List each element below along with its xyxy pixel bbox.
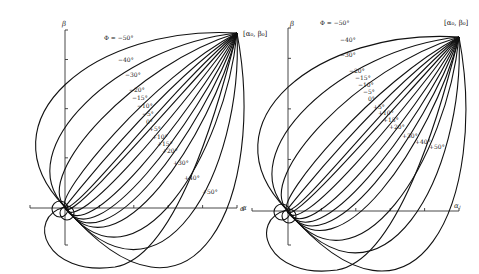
phi-curve-plus50deg [36, 32, 237, 207]
phi-curve-plus10deg [287, 37, 459, 210]
phi-label: +5° [149, 125, 161, 132]
phi-label: −20° [129, 86, 145, 93]
phi-label: −15° [355, 74, 371, 81]
phi-label: +50° [202, 188, 218, 195]
phi-label: +30° [173, 159, 189, 166]
phi-label: 0° [146, 118, 153, 125]
phi-curves [36, 32, 244, 267]
phi-label: −30° [125, 71, 141, 78]
phi-label: +10° [152, 133, 168, 140]
origin-loops [45, 33, 237, 268]
phi-label: +10° [378, 109, 394, 116]
phi-label: −5° [142, 110, 154, 117]
outer-lower-curve [45, 33, 237, 268]
alpha-left-marker: α [242, 204, 247, 212]
phi-label: +50° [429, 143, 445, 150]
target-point-label: [α₀, β₀] [243, 30, 268, 38]
phi-label: −5° [363, 88, 375, 95]
phase-trajectory-diagram: βα[α₀, β₀]Φ = −50°−40°−30°−20°−15°−10°−5… [0, 0, 479, 274]
phi-label: −10° [358, 81, 374, 88]
phi-label: −40° [118, 56, 134, 63]
beta-axis-label: β [289, 20, 294, 28]
phi-label: −10° [137, 102, 153, 109]
phi-label: Φ = −50° [104, 34, 133, 41]
left-panel: βα[α₀, β₀]Φ = −50°−40°−30°−20°−15°−10°−5… [30, 20, 268, 268]
phi-label: +20° [389, 123, 405, 130]
target-point-label: [α₀, β₀] [444, 19, 469, 27]
phi-label: 0° [368, 95, 375, 102]
alpha-axis-label: αⱼ [454, 202, 461, 210]
phi-curve-minus30deg [287, 37, 459, 240]
phi-label: +20° [162, 147, 178, 154]
phi-curve-minus30deg [65, 33, 237, 237]
phi-label: +15° [157, 140, 173, 147]
phi-label: +15° [383, 116, 399, 123]
phi-label: −30° [340, 51, 356, 58]
beta-axis-label: β [61, 20, 66, 28]
phi-label: −20° [349, 67, 365, 74]
phi-label: −40° [340, 36, 356, 43]
right-panel: βαⱼα[α₀, β₀]Φ = −50°−40°−30°−20°−15°−10°… [242, 19, 469, 271]
phi-label: −15° [132, 94, 148, 101]
phi-label: Φ = −50° [320, 19, 349, 26]
